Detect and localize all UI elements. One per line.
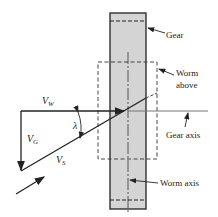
worm-gear-velocity-diagram: Gear Worm above Gear axis Worm axis λ VW… [0,0,218,217]
vw-label: VW [42,95,55,108]
lambda-arc [78,112,81,138]
sliding-direction-arrow [16,177,44,194]
gear-axis-leader [185,113,188,127]
worm-above-label-1: Worm [176,68,198,78]
vs-label: VS [56,154,66,167]
gear-axis-label: Gear axis [166,130,201,140]
vg-label: VG [27,133,38,146]
lambda-label: λ [72,120,78,131]
gear-label: Gear [166,30,184,40]
worm-above-label-2: above [176,80,198,90]
worm-above-leader [159,69,174,75]
gear-leader [148,28,165,33]
helix-dashed-line [146,93,157,98]
worm-axis-label: Worm axis [160,178,200,188]
